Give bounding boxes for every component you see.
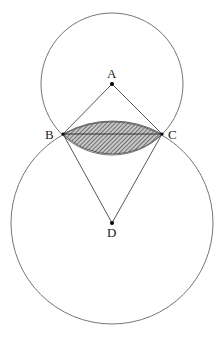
- point-b: [61, 132, 64, 135]
- label-b: B: [45, 127, 54, 142]
- label-c: C: [168, 127, 177, 142]
- geometry-diagram: A B C D: [0, 0, 217, 338]
- point-c: [160, 132, 163, 135]
- shaded-lens: [63, 121, 162, 154]
- label-a: A: [107, 66, 117, 81]
- label-d: D: [107, 225, 116, 240]
- point-a: [110, 82, 114, 86]
